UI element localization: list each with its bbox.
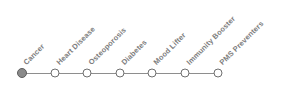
timeline-node-immunity-booster[interactable] [181,69,190,78]
timeline-node-diabetes[interactable] [116,69,125,78]
timeline-diagram: Cancer Heart Disease Osteoporosis Diabet… [0,0,306,90]
timeline-label-mood-lifter: Mood Lifter [152,31,187,66]
timeline-node-pms-preventers[interactable] [214,69,223,78]
timeline-node-cancer[interactable] [17,68,27,78]
timeline-label-cancer: Cancer [22,43,46,67]
timeline-label-immunity-booster: Immunity Booster [185,15,236,66]
timeline-node-mood-lifter[interactable] [148,69,157,78]
timeline-node-osteoporosis[interactable] [83,69,92,78]
timeline-label-osteoporosis: Osteoporosis [87,26,127,66]
timeline-node-heart-disease[interactable] [51,69,60,78]
timeline-label-pms-preventers: PMS Preventers [218,20,265,67]
timeline-label-heart-disease: Heart Disease [55,25,96,66]
timeline-label-diabetes: Diabetes [120,38,148,66]
